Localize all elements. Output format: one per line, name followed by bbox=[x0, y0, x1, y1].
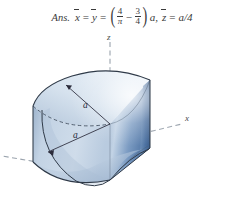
minus-sign: − bbox=[126, 11, 132, 23]
fraction-three-over-four: 3 4 bbox=[135, 7, 142, 26]
equals-sign-1: = bbox=[83, 11, 89, 23]
figure-svg: a a z x bbox=[0, 28, 244, 199]
fraction-four-over-pi: 4 π bbox=[117, 7, 124, 26]
fraction-denominator: π bbox=[117, 16, 124, 26]
fraction-numerator: 4 bbox=[117, 7, 124, 16]
z-axis-label: z bbox=[106, 32, 111, 42]
y-bar-symbol: y bbox=[92, 11, 97, 23]
x-bar-symbol: x bbox=[75, 11, 80, 23]
dimension-label-lower-a: a bbox=[73, 130, 78, 140]
highlight-bloom bbox=[62, 68, 174, 160]
equals-sign-2: = bbox=[100, 11, 106, 23]
fraction-denominator: 4 bbox=[135, 16, 142, 26]
answer-tag: Ans. bbox=[52, 12, 70, 23]
dimension-label-upper-a: a bbox=[83, 100, 88, 110]
fraction-numerator: 3 bbox=[135, 7, 142, 16]
a-comma-text: a, bbox=[150, 11, 158, 23]
solid-figure: a a z x bbox=[0, 28, 244, 199]
paren-open: ( bbox=[111, 8, 116, 25]
z-bar-symbol: z bbox=[162, 11, 166, 23]
figure-page: Ans. x = y = ( 4 π − 3 4 ) a, z = a/4 bbox=[0, 0, 244, 199]
equals-sign-3: = bbox=[169, 11, 175, 23]
x-axis-label: x bbox=[184, 113, 189, 123]
z-value-text: a/4 bbox=[178, 11, 192, 23]
paren-close: ) bbox=[142, 8, 147, 25]
